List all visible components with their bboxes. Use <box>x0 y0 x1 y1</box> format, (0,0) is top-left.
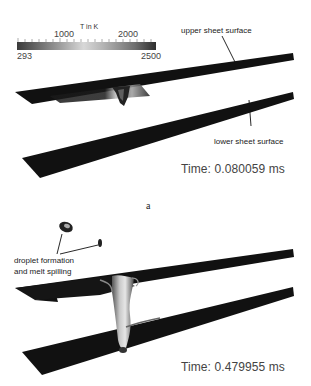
upper-sheet-surface-label: upper sheet surface <box>181 26 252 35</box>
upper-sheet-leader-line <box>222 36 235 62</box>
droplet-leader-line-1 <box>57 234 62 254</box>
lower-sheet-surface-label: lower sheet surface <box>214 137 283 146</box>
droplet-formation-label-line2: and melt spilling <box>14 267 71 276</box>
panel-a-upper-sheet <box>15 53 294 106</box>
panel-label-a: a <box>146 200 150 211</box>
droplet-leader-line-2 <box>60 245 98 254</box>
time-label-b: Time: 0.479955 ms <box>181 360 285 374</box>
droplet-formation-label-line1: droplet formation <box>14 256 74 265</box>
time-label-a: Time: 0.080059 ms <box>181 162 285 176</box>
droplets <box>58 220 102 247</box>
simulation-render <box>0 0 311 386</box>
figure: T in K 1000 2000 293 2500 <box>0 0 311 386</box>
